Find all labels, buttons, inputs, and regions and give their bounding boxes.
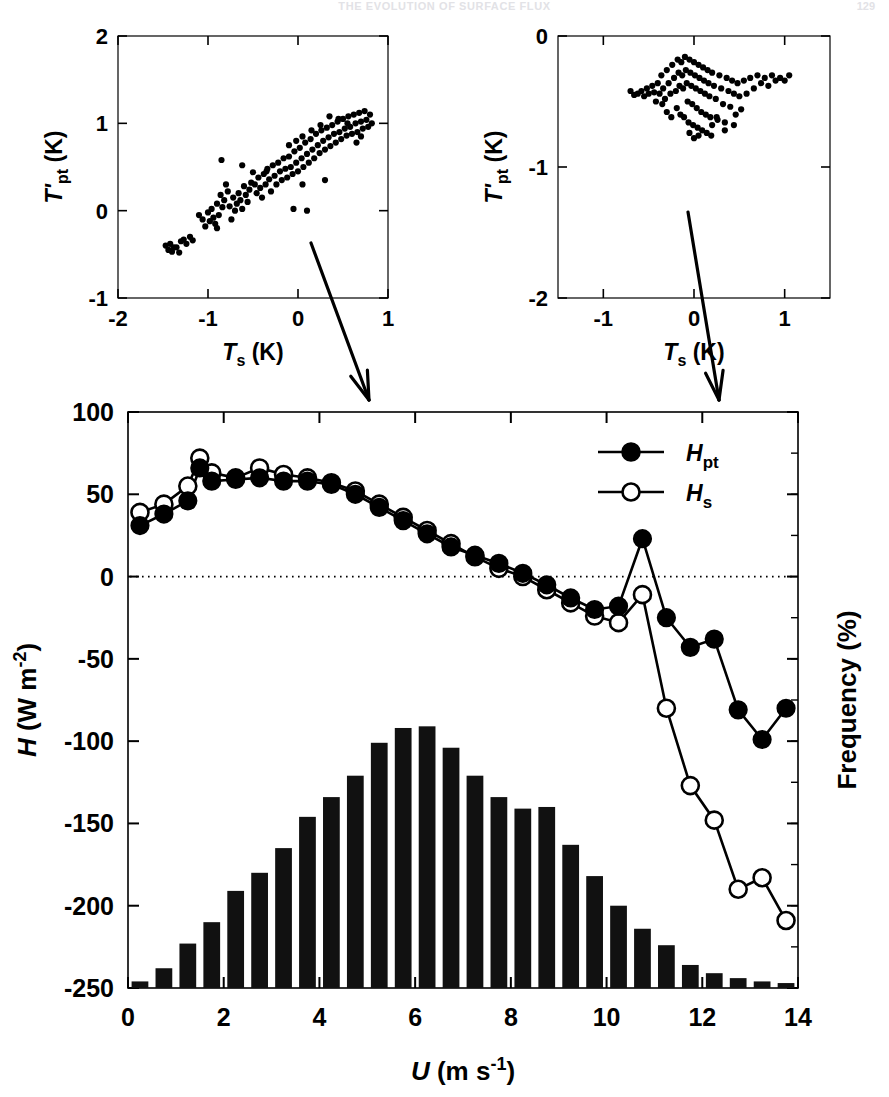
legend-marker-filled-circle — [623, 444, 640, 461]
svg-text:-250: -250 — [64, 974, 114, 1002]
histogram-bar — [299, 817, 316, 988]
marker-Hpt — [562, 589, 579, 606]
marker-Hpt — [610, 598, 627, 615]
svg-text:0: 0 — [121, 1003, 135, 1031]
histogram-bar — [610, 906, 627, 988]
marker-Hpt — [658, 609, 675, 626]
svg-text:10: 10 — [593, 1003, 621, 1031]
flux-series — [131, 450, 794, 929]
marker-Hs — [730, 881, 747, 898]
marker-Hpt — [323, 476, 340, 493]
svg-text:12: 12 — [688, 1003, 716, 1031]
histogram-bar — [179, 944, 196, 988]
marker-Hpt — [443, 538, 460, 555]
histogram-bar — [395, 728, 412, 988]
marker-Hpt — [275, 473, 292, 490]
histogram-bar — [706, 973, 723, 988]
histogram-bar — [156, 968, 173, 988]
marker-Hs — [610, 614, 627, 631]
marker-Hpt — [347, 486, 364, 503]
main-flux-plot-svg: 02468101214100500-50-100-150-200-250U (m… — [0, 380, 889, 1097]
marker-Hpt — [179, 492, 196, 509]
svg-text:50: 50 — [86, 480, 114, 508]
marker-Hs — [706, 812, 723, 829]
frequency-histogram — [132, 726, 795, 988]
legend-item: Hs — [598, 480, 712, 512]
series-line-Hpt — [140, 468, 786, 740]
marker-Hpt — [730, 701, 747, 718]
svg-text:4: 4 — [312, 1003, 326, 1031]
marker-Hpt — [466, 547, 483, 564]
histogram-bar — [586, 876, 603, 988]
arrow-from-right-inset — [688, 212, 723, 400]
marker-Hpt — [634, 530, 651, 547]
marker-Hpt — [419, 525, 436, 542]
histogram-bar — [251, 873, 268, 988]
histogram-bar — [754, 981, 771, 988]
marker-Hpt — [538, 576, 555, 593]
histogram-bar — [658, 945, 675, 988]
svg-text:14: 14 — [784, 1003, 812, 1031]
svg-text:100: 100 — [72, 398, 114, 426]
marker-Hpt — [299, 473, 316, 490]
marker-Hpt — [395, 512, 412, 529]
marker-Hpt — [586, 601, 603, 618]
histogram-bar — [538, 807, 555, 988]
marker-Hpt — [754, 731, 771, 748]
svg-text:-100: -100 — [64, 727, 114, 755]
marker-Hs — [634, 586, 651, 603]
marker-Hpt — [131, 517, 148, 534]
histogram-bar — [443, 748, 460, 988]
histogram-bar — [491, 797, 508, 988]
histogram-bar — [371, 743, 388, 988]
histogram-bar — [419, 726, 436, 988]
legend-label: Hpt — [686, 440, 719, 472]
histogram-bar — [634, 929, 651, 988]
svg-text:0: 0 — [100, 563, 114, 591]
svg-text:6: 6 — [408, 1003, 422, 1031]
histogram-bar — [778, 983, 795, 988]
histogram-bar — [227, 891, 244, 988]
svg-text:-50: -50 — [78, 645, 114, 673]
histogram-bar — [730, 978, 747, 988]
marker-Hpt — [251, 469, 268, 486]
marker-Hpt — [227, 471, 244, 488]
marker-Hpt — [514, 565, 531, 582]
histogram-bar — [514, 809, 531, 988]
marker-Hs — [682, 777, 699, 794]
marker-Hpt — [490, 555, 507, 572]
marker-Hs — [778, 912, 795, 929]
legend: HptHs — [598, 440, 719, 512]
svg-text:-200: -200 — [64, 892, 114, 920]
histogram-bar — [347, 776, 364, 988]
legend-label: Hs — [686, 480, 712, 512]
legend-marker-open-circle — [623, 484, 640, 501]
marker-Hpt — [778, 700, 795, 717]
histogram-bar — [323, 797, 340, 988]
histogram-bar — [562, 845, 579, 988]
frequency-axis-label: Frequency (%) — [832, 610, 862, 789]
svg-text:H (W m-2): H (W m-2) — [10, 643, 42, 757]
svg-text:Frequency (%): Frequency (%) — [832, 610, 862, 789]
marker-Hs — [658, 700, 675, 717]
marker-Hpt — [155, 506, 172, 523]
marker-Hpt — [371, 499, 388, 516]
histogram-bar — [275, 848, 292, 988]
series-markers-Hs — [131, 450, 794, 929]
marker-Hs — [754, 869, 771, 886]
main-plot-panel: 02468101214100500-50-100-150-200-250U (m… — [0, 380, 889, 1097]
marker-Hpt — [682, 639, 699, 656]
svg-text:2: 2 — [217, 1003, 231, 1031]
svg-text:8: 8 — [504, 1003, 518, 1031]
marker-Hpt — [203, 473, 220, 490]
histogram-bar — [132, 981, 149, 988]
arrow-from-left-inset — [311, 243, 369, 400]
svg-text:-150: -150 — [64, 809, 114, 837]
main-y-axis-label: H (W m-2) — [10, 643, 42, 757]
histogram-bar — [467, 776, 484, 988]
histogram-bar — [203, 922, 220, 988]
marker-Hpt — [706, 631, 723, 648]
series-line-Hs — [140, 458, 786, 920]
legend-item: Hpt — [598, 440, 719, 472]
histogram-bar — [682, 965, 699, 988]
